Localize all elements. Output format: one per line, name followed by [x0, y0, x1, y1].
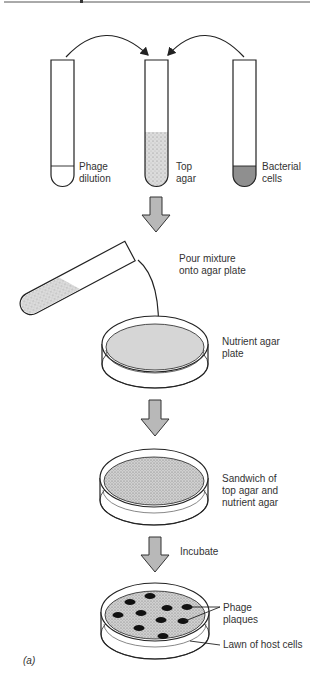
label-plaques-2: plaques [223, 614, 258, 625]
tube-phage-dilution [51, 60, 74, 187]
result-plate [101, 583, 209, 659]
label-pour-2: onto agar plate [179, 265, 246, 276]
plaque [136, 610, 147, 616]
nutrient-agar-plate [102, 316, 208, 388]
plaque-assay-diagram: Phage dilution Top agar Bacterial cells … [0, 0, 314, 684]
plaque [125, 599, 136, 605]
label-bacterial-cells-2: cells [262, 173, 282, 184]
label-phage-dilution-2: dilution [79, 173, 111, 184]
step-arrow-2 [141, 400, 169, 436]
label-lawn: Lawn of host cells [223, 639, 303, 650]
panel-label: (a) [23, 655, 35, 666]
plaque [145, 593, 156, 599]
label-nutrient-plate-2: plate [222, 348, 244, 359]
transfer-arrow-cells [168, 35, 244, 57]
label-sandwich-3: nutrient agar [222, 497, 279, 508]
label-pour-1: Pour mixture [179, 253, 236, 264]
label-top-agar-1: Top [176, 161, 193, 172]
tube-top-agar [145, 60, 168, 187]
label-nutrient-plate-1: Nutrient agar [222, 336, 280, 347]
sandwich-plate [100, 449, 208, 525]
label-sandwich-1: Sandwich of [222, 473, 277, 484]
plaque [162, 605, 173, 611]
label-incubate: Incubate [180, 546, 219, 557]
label-top-agar-2: agar [176, 173, 197, 184]
plaque [134, 625, 145, 631]
tube-bacterial-cells [233, 60, 256, 187]
step-arrow-1 [142, 197, 170, 232]
top-rule-mark [80, 0, 83, 3]
transfer-arrow-phage [66, 35, 148, 57]
plaque [113, 612, 124, 618]
label-bacterial-cells-1: Bacterial [262, 161, 301, 172]
label-sandwich-2: top agar and [222, 485, 278, 496]
tube-pouring [16, 241, 135, 318]
plaque [158, 633, 169, 639]
plaque [156, 617, 167, 623]
label-phage-dilution-1: Phage [79, 161, 108, 172]
step-arrow-3 [141, 537, 169, 572]
label-plaques-1: Phage [223, 602, 252, 613]
plaque [178, 618, 189, 624]
